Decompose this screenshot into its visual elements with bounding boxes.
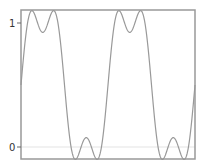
ytick-label-0: 0 — [9, 142, 15, 153]
data-line — [21, 11, 195, 160]
chart: 1 0 — [0, 0, 206, 168]
ytick-label-1: 1 — [9, 18, 15, 29]
